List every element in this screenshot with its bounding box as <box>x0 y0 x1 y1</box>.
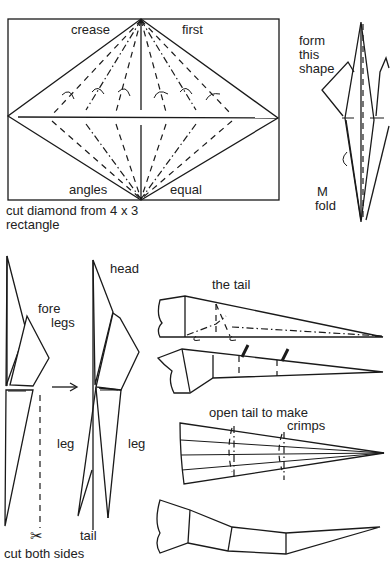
finished-tail-figure <box>157 500 380 554</box>
label-equal: equal <box>170 182 202 197</box>
label-crimps: crimps <box>287 418 326 433</box>
diamond-crease-figure: crease first angles equal <box>8 19 279 200</box>
label-fold: fold <box>315 198 336 213</box>
scissors-icon: ✂ <box>30 528 43 544</box>
forelegs-figure: ✂ fore legs cut both sides <box>4 256 85 561</box>
open-tail-figure: open tail to make crimps <box>180 405 384 484</box>
origami-diagram: crease first angles equal cut diamond fr… <box>0 0 391 564</box>
label-m: M <box>317 184 328 199</box>
label-the-tail: the tail <box>212 277 250 292</box>
tail-fold-figure: the tail <box>158 277 383 393</box>
right-arrow-icon <box>52 383 77 391</box>
label-shape: shape <box>299 61 334 76</box>
crimp-mark-icon <box>282 349 288 361</box>
label-leg-left: leg <box>57 436 74 451</box>
label-legs: legs <box>51 315 75 330</box>
caption-cut-diamond: cut diamond from 4 x 3 <box>6 203 138 218</box>
label-leg-right: leg <box>128 436 145 451</box>
head-legs-figure: head leg leg tail <box>57 260 145 543</box>
crimp-mark-icon <box>242 345 248 357</box>
label-form: form <box>299 33 325 48</box>
label-this: this <box>299 47 320 62</box>
label-first: first <box>182 22 203 37</box>
caption-rectangle: rectangle <box>6 217 59 232</box>
base-shape-figure: form this shape M fold <box>299 22 389 222</box>
label-angles: angles <box>69 182 108 197</box>
caption-cut-both-sides: cut both sides <box>4 546 85 561</box>
label-head: head <box>110 261 139 276</box>
label-tail: tail <box>80 528 97 543</box>
label-crease: crease <box>71 22 110 37</box>
label-fore: fore <box>38 301 60 316</box>
